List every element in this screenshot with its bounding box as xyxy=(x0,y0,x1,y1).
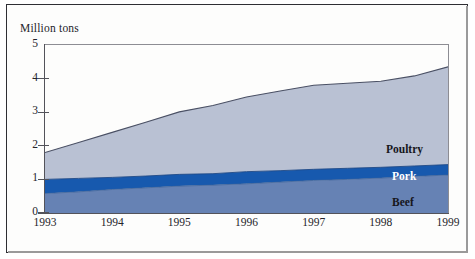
y-tick-label-2: 2 xyxy=(12,138,38,150)
y-axis-title: Million tons xyxy=(20,22,79,34)
y-tick-mark-2 xyxy=(38,145,49,146)
x-tick-label-1998: 1998 xyxy=(351,216,411,228)
x-tick-label-1997: 1997 xyxy=(284,216,344,228)
area-series-poultry xyxy=(45,67,448,180)
x-tick-label-1999: 1999 xyxy=(418,216,475,228)
series-label-beef: Beef xyxy=(392,196,414,208)
y-tick-mark-3 xyxy=(38,112,49,113)
x-tick-label-1994: 1994 xyxy=(82,216,142,228)
x-axis-line xyxy=(44,213,449,214)
x-tick-label-1993: 1993 xyxy=(15,216,75,228)
y-tick-label-1: 1 xyxy=(12,171,38,183)
y-tick-mark-1 xyxy=(38,179,49,180)
figure-container: Million tons 012345 19931994199519961997… xyxy=(0,0,475,259)
y-tick-label-3: 3 xyxy=(12,104,38,116)
x-tick-label-1996: 1996 xyxy=(217,216,277,228)
stacked-area-plot xyxy=(45,45,448,213)
series-label-poultry: Poultry xyxy=(386,143,423,155)
x-tick-label-1995: 1995 xyxy=(149,216,209,228)
plot-border-right xyxy=(448,44,449,214)
y-tick-label-5: 5 xyxy=(12,37,38,49)
y-tick-mark-0 xyxy=(38,212,49,213)
y-tick-mark-4 xyxy=(38,78,49,79)
series-label-pork: Pork xyxy=(392,170,416,182)
y-tick-label-4: 4 xyxy=(12,71,38,83)
